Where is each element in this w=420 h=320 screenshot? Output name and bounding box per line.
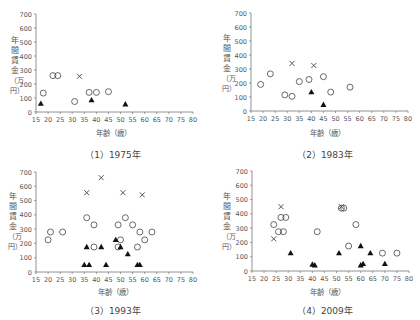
y-axis-label: 年間賃金（万円）: [8, 192, 18, 252]
circle-marker: [72, 99, 78, 105]
x-tick-label: 70: [165, 116, 173, 124]
x-axis-label: 年齢（歳）: [310, 286, 345, 297]
circle-marker: [137, 229, 143, 235]
y-tick-label: 300: [236, 225, 248, 233]
x-tick-label: 55: [128, 116, 136, 124]
circle-marker: [282, 92, 288, 98]
y-tick-label: 400: [236, 210, 248, 218]
triangle-marker: [98, 244, 104, 249]
x-tick-label: 40: [308, 275, 316, 283]
cross-marker: [271, 236, 276, 241]
x-axis-label: 年齢（歳）: [98, 286, 133, 297]
triangle-marker: [81, 262, 87, 267]
cross-marker: [99, 175, 104, 180]
x-tick-label: 55: [343, 115, 351, 123]
triangle-marker: [367, 250, 373, 255]
y-axis-label: 年間賃金（万円）: [222, 34, 232, 94]
circle-marker: [379, 250, 385, 256]
y-tick-label: 400: [20, 53, 32, 61]
triangle-marker: [288, 250, 294, 255]
x-tick-label: 20: [260, 275, 268, 283]
y-axis-label: 年間賃金（万円）: [10, 36, 20, 96]
y-tick-label: 100: [20, 95, 32, 103]
x-tick-label: 15: [32, 116, 40, 124]
y-tick-label: 500: [236, 196, 248, 204]
chart-caption: （4）2009年: [220, 304, 420, 317]
y-tick-label: 500: [20, 39, 32, 47]
x-tick-label: 60: [141, 276, 149, 284]
y-tick-label: 100: [235, 94, 247, 102]
y-tick-label: 700: [236, 168, 248, 176]
circle-marker: [105, 89, 111, 95]
circle-marker: [149, 229, 155, 235]
y-tick-label: 600: [235, 24, 247, 32]
circle-marker: [60, 229, 66, 235]
x-tick-label: 50: [116, 276, 124, 284]
triangle-marker: [382, 261, 388, 266]
y-tick-label: 400: [20, 211, 32, 219]
circle-marker: [346, 243, 352, 249]
x-tick-label: 30: [283, 115, 291, 123]
circle-marker: [328, 89, 334, 95]
circle-marker: [91, 222, 97, 228]
x-tick-label: 40: [92, 276, 100, 284]
triangle-marker: [103, 262, 109, 267]
y-tick-label: 400: [235, 52, 247, 60]
y-tick-label: 600: [20, 183, 32, 191]
x-tick-label: 35: [296, 275, 304, 283]
x-tick-label: 60: [141, 116, 149, 124]
y-axis-label: 年間賃金（万円）: [222, 192, 232, 252]
x-tick-label: 65: [368, 115, 376, 123]
y-tick-label: 300: [20, 67, 32, 75]
y-tick-label: 700: [235, 10, 247, 18]
cross-marker: [77, 74, 82, 79]
y-tick-label: 100: [20, 254, 32, 262]
cross-marker: [84, 190, 89, 195]
x-tick-label: 15: [247, 115, 255, 123]
x-tick-label: 80: [189, 276, 197, 284]
circle-marker: [258, 81, 264, 87]
x-tick-label: 20: [44, 276, 52, 284]
circle-marker: [45, 237, 51, 243]
x-tick-label: 40: [307, 115, 315, 123]
circle-marker: [47, 229, 53, 235]
triangle-marker: [86, 262, 92, 267]
x-tick-label: 45: [104, 116, 112, 124]
x-tick-label: 70: [380, 115, 388, 123]
y-tick-label: 300: [235, 66, 247, 74]
x-tick-label: 35: [80, 116, 88, 124]
x-tick-label: 40: [92, 116, 100, 124]
x-tick-label: 75: [393, 275, 401, 283]
x-tick-label: 65: [153, 276, 161, 284]
circle-marker: [320, 74, 326, 80]
x-tick-label: 70: [381, 275, 389, 283]
circle-marker: [289, 93, 295, 99]
circle-marker: [306, 77, 312, 83]
x-tick-label: 50: [116, 116, 124, 124]
x-tick-label: 25: [271, 115, 279, 123]
x-tick-label: 50: [331, 115, 339, 123]
x-tick-label: 45: [319, 115, 327, 123]
circle-marker: [271, 222, 277, 228]
circle-marker: [84, 215, 90, 221]
triangle-marker: [118, 244, 124, 249]
circle-marker: [314, 229, 320, 235]
x-tick-label: 50: [332, 275, 340, 283]
x-tick-label: 15: [248, 275, 256, 283]
circle-marker: [142, 237, 148, 243]
cross-marker: [120, 190, 125, 195]
x-tick-label: 15: [32, 276, 40, 284]
y-tick-label: 700: [20, 169, 32, 177]
y-tick-label: 500: [235, 38, 247, 46]
x-tick-label: 30: [284, 275, 292, 283]
y-tick-label: 600: [236, 182, 248, 190]
x-axis-label: 年齢（歳）: [96, 127, 131, 138]
triangle-marker: [308, 89, 314, 94]
x-tick-label: 20: [44, 116, 52, 124]
triangle-marker: [84, 244, 90, 249]
triangle-marker: [336, 250, 342, 255]
x-tick-label: 25: [56, 116, 64, 124]
x-tick-label: 30: [68, 116, 76, 124]
triangle-marker: [122, 101, 128, 106]
x-tick-label: 30: [68, 276, 76, 284]
